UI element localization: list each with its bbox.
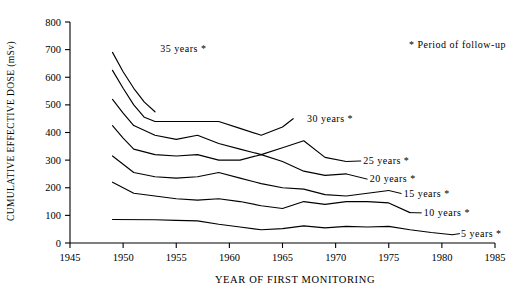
cumulative-effective-dose-line-chart: 0100200300400500600700800 19451950195519…: [0, 0, 528, 289]
x-tick-label: 1955: [166, 252, 187, 263]
series-label-25-years: 25 years *: [363, 155, 409, 166]
x-tick-label: 1950: [113, 252, 134, 263]
y-tick-label: 600: [45, 72, 61, 83]
x-tick-label: 1960: [219, 252, 240, 263]
x-tick-label: 1980: [431, 252, 452, 263]
y-tick-label: 100: [45, 210, 61, 221]
y-axis-title: CUMULATIVE EFFECTIVE DOSE (mSv): [6, 41, 17, 221]
series-line-10-years: [113, 182, 411, 212]
y-tick-label: 300: [45, 155, 61, 166]
series-label-35-years: 35 years *: [160, 43, 206, 54]
series-label-10-years: 10 years *: [424, 207, 470, 218]
y-tick-label: 700: [45, 44, 61, 55]
series-label-20-years: 20 years *: [370, 173, 416, 184]
chart-container: 0100200300400500600700800 19451950195519…: [0, 0, 528, 289]
y-tick-label: 800: [45, 17, 61, 28]
series-line-30-years: [113, 70, 294, 135]
series-lines: [113, 52, 453, 234]
y-tick-label: 200: [45, 182, 61, 193]
series-line-15-years: [113, 156, 389, 196]
series-label-5-years: 5 years *: [461, 228, 502, 239]
y-tick-label: 500: [45, 99, 61, 110]
series-label-15-years: 15 years *: [404, 188, 450, 199]
x-axis: 194519501955196019651970197519801985: [60, 243, 506, 263]
x-tick-label: 1975: [378, 252, 399, 263]
y-tick-label: 400: [45, 127, 61, 138]
y-axis: 0100200300400500600700800: [45, 17, 70, 249]
x-tick-label: 1945: [60, 252, 81, 263]
x-tick-label: 1970: [325, 252, 346, 263]
x-tick-label: 1985: [485, 252, 506, 263]
x-axis-title: YEAR OF FIRST MONITORING: [215, 274, 375, 285]
series-label-30-years: 30 years *: [307, 113, 353, 124]
x-tick-label: 1965: [272, 252, 293, 263]
y-tick-label: 0: [56, 238, 61, 249]
series-line-5-years: [113, 220, 453, 235]
series-line-20-years: [113, 126, 347, 176]
legend-note: * Period of follow-up: [409, 39, 506, 50]
